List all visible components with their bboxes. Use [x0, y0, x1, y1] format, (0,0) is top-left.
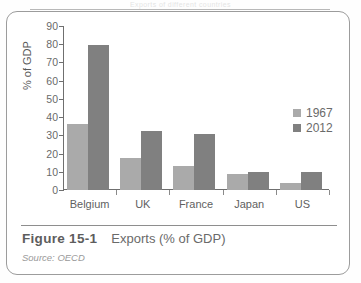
bar-uk-1967 — [120, 158, 141, 190]
legend-label: 1967 — [306, 106, 333, 120]
y-tick-label: 70 — [46, 56, 58, 68]
x-tick-mark — [276, 190, 277, 195]
legend-item-2012: 2012 — [293, 121, 355, 135]
bar-uk-2012 — [141, 131, 162, 190]
x-category-label: Japan — [234, 198, 264, 210]
x-tick-mark — [223, 190, 224, 195]
y-tick-label: 20 — [46, 148, 58, 160]
bar-group — [223, 26, 276, 190]
figure-frame: % of GDP 0102030405060708090 BelgiumUKFr… — [6, 11, 350, 275]
bar-chart: % of GDP 0102030405060708090 BelgiumUKFr… — [21, 18, 337, 216]
bar-group — [169, 26, 222, 190]
x-tick-mark — [116, 190, 117, 195]
bar-france-1967 — [173, 166, 194, 190]
y-tick-label: 50 — [46, 93, 58, 105]
figure-source: Source: OECD — [22, 252, 85, 263]
x-tick-mark — [169, 190, 170, 195]
x-category-label: US — [295, 198, 310, 210]
bar-group — [63, 26, 116, 190]
bar-us-2012 — [301, 172, 322, 190]
legend-item-1967: 1967 — [293, 106, 355, 120]
legend-swatch-icon — [293, 124, 301, 132]
chart-legend: 1967 2012 — [293, 106, 355, 136]
y-tick-label: 90 — [46, 20, 58, 32]
y-tick-mark — [59, 190, 64, 191]
x-axis-category-labels: BelgiumUKFranceJapanUS — [63, 198, 329, 214]
bar-france-2012 — [194, 134, 215, 190]
bar-group — [116, 26, 169, 190]
bar-japan-1967 — [227, 174, 248, 190]
y-tick-label: 60 — [46, 75, 58, 87]
x-category-label: Belgium — [70, 198, 110, 210]
y-tick-label: 80 — [46, 38, 58, 50]
caption-divider — [21, 225, 337, 226]
legend-label: 2012 — [306, 121, 333, 135]
bars-layer — [63, 26, 329, 190]
figure-title: Exports (% of GDP) — [111, 231, 225, 246]
bar-us-1967 — [280, 183, 301, 190]
bar-belgium-1967 — [67, 124, 88, 190]
x-category-label: UK — [135, 198, 150, 210]
x-tick-mark — [329, 190, 330, 195]
y-tick-label: 40 — [46, 111, 58, 123]
y-tick-label: 30 — [46, 129, 58, 141]
plot-area: 0102030405060708090 — [63, 26, 329, 196]
figure-page: Exports of different countries % of GDP … — [0, 0, 361, 283]
figure-number: Figure 15-1 — [22, 231, 97, 246]
page-header-remnant: Exports of different countries — [0, 0, 361, 9]
page-header-rule — [30, 9, 330, 10]
figure-caption: Figure 15-1 Exports (% of GDP) — [22, 231, 342, 249]
legend-swatch-icon — [293, 109, 301, 117]
y-tick-label: 0 — [52, 184, 58, 196]
bar-japan-2012 — [248, 172, 269, 190]
bar-belgium-2012 — [88, 45, 109, 190]
x-category-label: France — [179, 198, 213, 210]
y-tick-label: 10 — [46, 166, 58, 178]
y-axis-title: % of GDP — [21, 74, 33, 90]
